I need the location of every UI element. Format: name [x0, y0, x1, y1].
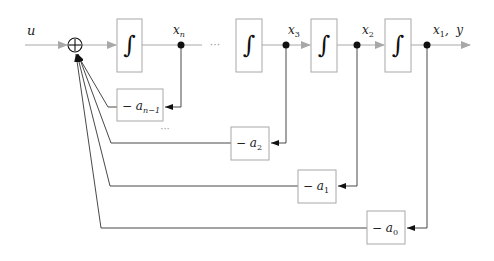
ellipsis-top: ···: [210, 38, 221, 51]
node-xn: [178, 42, 185, 49]
block-diagram: ∫ ∫ ∫ ∫ u xn x3 x2 x1, y ··· ···: [0, 0, 494, 261]
integrator-3: ∫: [236, 19, 262, 72]
node-x2: [354, 42, 361, 49]
gain-block-a1: − a1: [298, 170, 336, 203]
integral-icon: ∫: [318, 31, 331, 59]
input-label: u: [27, 23, 35, 38]
integrator-1: ∫: [385, 19, 411, 72]
state-label-x1-y: x1, y: [433, 23, 463, 39]
state-label-x2: x2: [362, 23, 374, 39]
gain-block-a0: − a0: [367, 211, 405, 244]
node-x1: [424, 42, 431, 49]
gain-block-a-n-minus-1: − an−1: [117, 89, 163, 121]
state-label-xn: xn: [173, 23, 185, 39]
integrator-2: ∫: [311, 19, 337, 72]
ellipsis-feedback: ···: [160, 123, 170, 134]
integral-icon: ∫: [243, 31, 256, 59]
summing-junction: [68, 38, 82, 52]
integrator-n: ∫: [117, 19, 142, 72]
gain-block-a2: − a2: [231, 127, 269, 160]
integral-icon: ∫: [392, 31, 405, 59]
integral-icon: ∫: [123, 31, 136, 59]
state-label-x3: x3: [288, 23, 300, 39]
node-x3: [283, 42, 290, 49]
